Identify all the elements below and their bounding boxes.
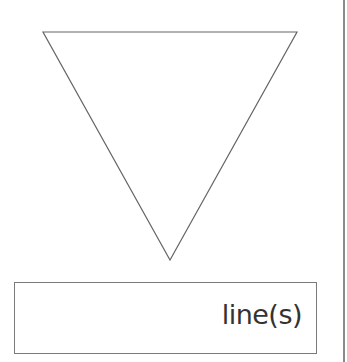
label-text: line(s) (222, 295, 302, 335)
label-box: line(s) (14, 282, 317, 354)
vertical-divider (343, 0, 345, 362)
diagram-canvas: line(s) (0, 0, 347, 362)
inverted-triangle-shape (43, 32, 297, 260)
